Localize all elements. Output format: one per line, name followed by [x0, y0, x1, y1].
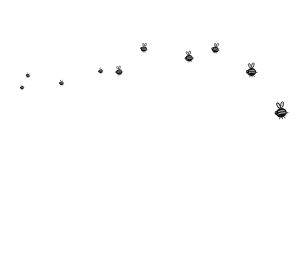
bee-icon — [139, 43, 150, 54]
bee-icon — [182, 50, 196, 64]
bee-icon — [271, 101, 292, 122]
bee-icon — [113, 65, 125, 77]
bee-icon — [243, 62, 259, 78]
bee-icon — [19, 84, 26, 91]
bee-icon — [209, 42, 222, 55]
scene-description: A swarm of small black cartoon bees flyi… — [0, 0, 1, 1]
bee-icon — [25, 72, 32, 79]
bee-swarm-scene: A swarm of small black cartoon bees flyi… — [0, 0, 293, 258]
bee-icon — [96, 66, 105, 75]
bee-icon — [57, 78, 65, 86]
